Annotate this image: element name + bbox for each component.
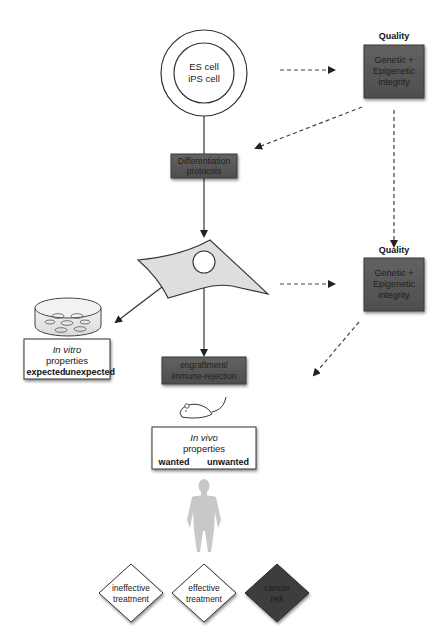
outcome-cancer-risk: cancer risk — [245, 564, 309, 622]
engraftment-line-2: immune-rejection — [171, 371, 236, 381]
quality-heading-middle: Quality — [379, 245, 410, 255]
engraftment-line-1: engraftment/ — [180, 360, 228, 370]
in-vitro-title: In vitro — [53, 344, 82, 355]
stem-cell-label-2: iPS cell — [188, 73, 220, 84]
petri-dish-icon — [35, 298, 101, 336]
outcome-3-line-1: cancer — [264, 583, 290, 593]
quality-mid-line-1: Genetic + — [375, 268, 414, 278]
diagram-canvas: ES cell iPS cell Quality Genetic + Epige… — [0, 0, 447, 644]
dashed-connectors — [256, 70, 394, 375]
differentiation-line-2: protocols — [187, 166, 222, 176]
differentiation-protocols-node: Differentiation protocols — [171, 154, 237, 178]
in-vivo-subtitle: properties — [183, 443, 225, 454]
quality-check-top: Quality Genetic + Epigenetic integrity — [364, 31, 424, 98]
outcome-1-line-2: treatment — [113, 594, 150, 604]
quality-heading-top: Quality — [379, 31, 410, 41]
outcome-2-line-2: treatment — [186, 594, 223, 604]
differentiation-line-1: Differentiation — [178, 156, 231, 166]
outcome-effective-treatment: effective treatment — [172, 564, 236, 622]
differentiated-cell-icon — [138, 240, 268, 298]
human-silhouette-icon — [187, 479, 221, 552]
in-vivo-properties-box: In vivo properties wanted unwanted — [152, 427, 256, 469]
outcome-1-line-1: ineffective — [112, 583, 150, 593]
quality-mid-line-2: Epigenetic — [373, 279, 416, 289]
mouse-icon — [180, 397, 226, 418]
in-vivo-unwanted: unwanted — [207, 457, 249, 467]
quality-mid-line-3: integrity — [378, 290, 410, 300]
stem-cell-label-1: ES cell — [189, 61, 219, 72]
engraftment-node: engraftment/ immune-rejection — [162, 357, 246, 384]
quality-check-middle: Quality Genetic + Epigenetic integrity — [364, 245, 424, 311]
in-vitro-subtitle: properties — [46, 355, 88, 366]
in-vitro-unexpected: unexpected — [65, 367, 115, 377]
in-vivo-title: In vivo — [190, 432, 217, 443]
quality-top-line-3: integrity — [378, 77, 410, 87]
outcome-2-line-1: effective — [188, 583, 220, 593]
in-vivo-wanted: wanted — [157, 457, 189, 467]
outcome-ineffective-treatment: ineffective treatment — [99, 564, 163, 622]
quality-top-line-2: Epigenetic — [373, 66, 416, 76]
outcome-3-line-2: risk — [270, 594, 284, 604]
solid-connectors — [116, 116, 204, 355]
stem-cell-node: ES cell iPS cell — [161, 30, 247, 116]
quality-top-line-1: Genetic + — [375, 55, 414, 65]
in-vitro-expected: expected — [26, 367, 65, 377]
in-vitro-properties-box: In vitro properties expected unexpected — [24, 339, 115, 379]
